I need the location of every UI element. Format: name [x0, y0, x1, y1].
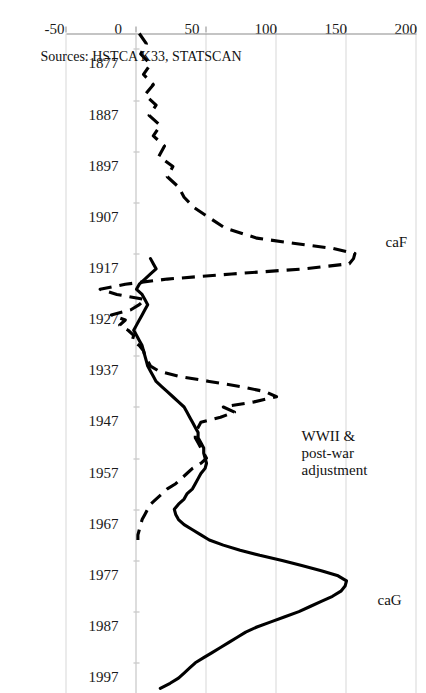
- annotation-caF: caF: [385, 233, 407, 250]
- source-note: Sources: HSTCA K33, STATSCAN: [40, 48, 241, 64]
- chart-figure: -500501001502001877188718971907191719271…: [0, 0, 426, 693]
- annotation-wwii-line1: WWII &: [301, 427, 367, 444]
- annotation-wwii: WWII &post-waradjustment: [301, 427, 367, 477]
- annotation-caG: caG: [377, 591, 401, 608]
- annotation-wwii-line3: adjustment: [301, 461, 367, 478]
- annotation-wwii-line2: post-war: [301, 444, 367, 461]
- chart-stage: -500501001502001877188718971907191719271…: [0, 0, 426, 693]
- plot-area: -500501001502001877188718971907191719271…: [0, 0, 426, 693]
- series-layer: [0, 0, 426, 693]
